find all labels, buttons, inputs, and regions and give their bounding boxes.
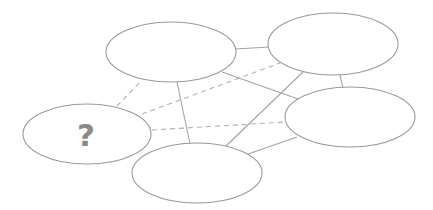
edge-top-left-bottom: [177, 82, 190, 144]
edge-right-bottom: [248, 137, 297, 154]
node-top-left: [106, 22, 236, 82]
edge-top-left-right: [222, 72, 298, 99]
nodes: ?: [23, 13, 415, 203]
node-top-right: [268, 13, 398, 75]
network-diagram: ?: [0, 0, 433, 210]
edge-top-left-top-right: [236, 47, 269, 49]
question-mark-icon: ?: [77, 117, 95, 153]
edge-unknown-right: [152, 122, 285, 130]
node-bottom: [132, 143, 262, 203]
edge-unknown-top-left: [117, 81, 141, 106]
node-right: [285, 87, 415, 147]
edge-top-right-right: [340, 75, 343, 88]
